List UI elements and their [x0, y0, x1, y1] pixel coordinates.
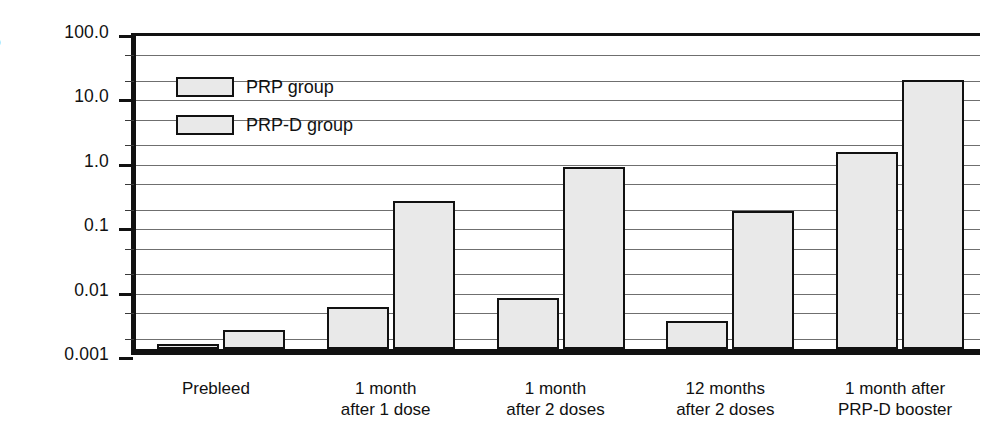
x-axis-label-line: 12 months — [630, 378, 820, 399]
y-axis-tick — [119, 293, 133, 296]
plot-area: PRP group PRP-D group — [131, 33, 980, 355]
y-axis-tick-label: 0.1 — [0, 215, 109, 236]
y-axis-tick — [119, 357, 133, 360]
x-axis-label-line: after 2 doses — [630, 399, 820, 420]
bar — [327, 307, 389, 349]
legend-item-prp: PRP group — [176, 72, 353, 102]
y-axis-tick — [119, 228, 133, 231]
x-axis-label-line: 1 month — [461, 378, 651, 399]
y-axis-tick — [119, 35, 133, 38]
x-axis-category-label: 1 month afterPRP-D booster — [800, 378, 990, 420]
y-axis-minor-tick — [125, 249, 134, 250]
x-axis-category-label: 12 monthsafter 2 doses — [630, 378, 820, 420]
x-axis-category-label: 1 monthafter 1 dose — [291, 378, 481, 420]
y-axis-tick-label: 1.0 — [0, 151, 109, 172]
legend-swatch-icon — [176, 115, 234, 135]
legend-label: PRP-D group — [246, 115, 353, 136]
bar — [732, 211, 794, 349]
y-axis-minor-tick — [125, 120, 134, 121]
bar — [666, 321, 728, 349]
bar — [902, 80, 964, 349]
legend-swatch-icon — [176, 77, 234, 97]
chart-legend: PRP group PRP-D group — [176, 72, 353, 148]
y-axis-minor-tick — [125, 313, 134, 314]
y-axis-minor-tick — [125, 210, 134, 211]
bar — [157, 344, 219, 349]
x-axis-label-line: after 2 doses — [461, 399, 651, 420]
y-axis-minor-tick — [125, 81, 134, 82]
chart-figure: Ug PRP antibody/ml 100.010.01.00.10.010.… — [0, 0, 1004, 429]
x-axis-category-labels: Prebleed1 monthafter 1 dose1 monthafter … — [131, 378, 980, 426]
legend-label: PRP group — [246, 77, 334, 98]
y-axis-tick-label: 0.001 — [0, 344, 109, 365]
y-axis-minor-tick — [125, 274, 134, 275]
bar — [393, 201, 455, 349]
x-axis-label-line: Prebleed — [121, 378, 311, 399]
y-axis-tick-label: 0.01 — [0, 280, 109, 301]
y-axis-minor-tick — [125, 339, 134, 340]
y-axis-tick — [119, 99, 133, 102]
x-axis-label-line: 1 month — [291, 378, 481, 399]
x-axis-category-label: 1 monthafter 2 doses — [461, 378, 651, 420]
legend-item-prp-d: PRP-D group — [176, 110, 353, 140]
y-axis-tick-label: 10.0 — [0, 86, 109, 107]
bar — [223, 330, 285, 349]
x-axis-label-line: after 1 dose — [291, 399, 481, 420]
bar — [497, 298, 559, 349]
y-axis-minor-tick — [125, 145, 134, 146]
y-axis-minor-tick — [125, 184, 134, 185]
y-axis-tick — [119, 164, 133, 167]
x-axis-label-line: PRP-D booster — [800, 399, 990, 420]
bar — [836, 152, 898, 349]
bar — [563, 167, 625, 349]
x-axis-label-line: 1 month after — [800, 378, 990, 399]
y-axis-minor-tick — [125, 55, 134, 56]
x-axis-category-label: Prebleed — [121, 378, 311, 399]
y-axis-tick-label: 100.0 — [0, 22, 109, 43]
